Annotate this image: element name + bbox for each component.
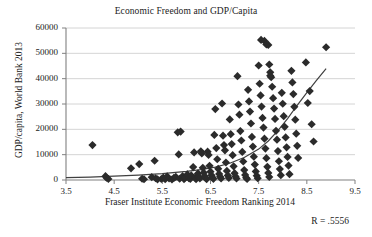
data-point	[218, 99, 226, 107]
data-point	[291, 116, 299, 124]
data-point	[304, 99, 312, 107]
y-tick-label: 40000	[18, 73, 58, 83]
data-point	[276, 165, 284, 173]
data-point	[234, 100, 242, 108]
data-point	[285, 170, 293, 178]
data-point	[279, 100, 287, 108]
data-point	[289, 90, 297, 98]
data-point	[278, 89, 286, 97]
data-point	[235, 111, 243, 119]
data-point	[255, 61, 263, 69]
data-point	[293, 142, 301, 150]
data-point	[219, 132, 227, 140]
data-point	[274, 147, 282, 155]
y-tick-label: 30000	[18, 98, 58, 108]
y-tick-label: 50000	[18, 47, 58, 57]
data-point	[272, 127, 280, 135]
data-point	[269, 94, 277, 102]
y-tick-label: 10000	[18, 149, 58, 159]
data-point	[302, 58, 310, 66]
data-point	[268, 83, 276, 91]
data-point	[271, 115, 279, 123]
x-tick-label: 4.5	[99, 186, 129, 196]
chart-container: Economic Freedom and GDP/Capita GDP/capi…	[0, 0, 372, 237]
data-point	[237, 136, 245, 144]
data-point	[213, 155, 221, 163]
data-point	[292, 130, 300, 138]
data-point	[265, 60, 273, 68]
data-point	[283, 143, 291, 151]
data-point	[175, 150, 183, 158]
x-tick-label: 5.5	[147, 186, 177, 196]
x-tick-label: 7.5	[244, 186, 274, 196]
trend-line	[66, 69, 326, 178]
data-point	[251, 160, 259, 168]
data-point	[127, 164, 135, 172]
data-point	[244, 86, 252, 94]
data-point	[283, 153, 291, 161]
data-point	[228, 140, 236, 148]
data-point	[229, 151, 237, 159]
x-tick-label: 3.5	[51, 186, 81, 196]
data-point	[277, 171, 285, 179]
data-point	[273, 136, 281, 144]
data-point	[322, 43, 330, 51]
data-point	[246, 108, 254, 116]
data-point	[256, 80, 264, 88]
data-point	[151, 157, 159, 165]
data-point	[288, 78, 296, 86]
data-point	[258, 114, 266, 122]
x-tick-label: 9.5	[340, 186, 370, 196]
data-point	[248, 133, 256, 141]
data-point	[306, 87, 314, 95]
x-tick-label: 6.5	[196, 186, 226, 196]
data-point	[256, 91, 264, 99]
data-point	[190, 148, 198, 156]
data-point	[227, 130, 235, 138]
data-point	[270, 104, 278, 112]
data-point	[236, 127, 244, 135]
data-point	[135, 160, 143, 168]
data-point	[226, 115, 234, 123]
y-tick-label: 20000	[18, 123, 58, 133]
data-point	[210, 131, 218, 139]
y-tick-label: 0	[18, 174, 58, 184]
y-tick-label: 60000	[18, 22, 58, 32]
data-point	[294, 154, 302, 162]
data-point	[247, 119, 255, 127]
data-point	[212, 144, 220, 152]
data-point	[221, 146, 229, 154]
data-point	[262, 154, 270, 162]
data-point	[309, 137, 317, 145]
data-point	[249, 142, 257, 150]
data-point	[287, 67, 295, 75]
data-point	[259, 123, 267, 131]
data-point	[308, 120, 316, 128]
x-tick-label: 8.5	[292, 186, 322, 196]
scatter-plot-area	[0, 0, 372, 237]
data-point	[211, 105, 219, 113]
data-point	[282, 133, 290, 141]
data-point	[88, 141, 96, 149]
data-point	[284, 161, 292, 169]
data-point	[263, 163, 271, 171]
data-point	[275, 157, 283, 165]
